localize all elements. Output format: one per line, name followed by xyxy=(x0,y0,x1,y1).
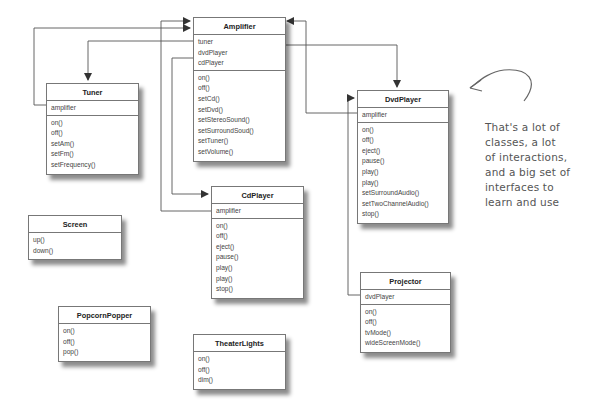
attributes-section: amplifier xyxy=(47,101,138,116)
class-title: Projector xyxy=(361,273,450,290)
attributes-section: tuner dvdPlayer cdPlayer xyxy=(194,35,285,71)
method: on() xyxy=(365,307,446,318)
methods-section: on() off() setAm() setFm() setFrequency(… xyxy=(47,116,138,174)
attribute: amplifier xyxy=(51,103,134,114)
class-title: Amplifier xyxy=(194,18,285,35)
method: stop() xyxy=(216,284,299,295)
class-theaterlights: TheaterLights on() off() dim() xyxy=(193,334,286,390)
annotation-line: That's a lot of xyxy=(485,120,595,135)
method: up() xyxy=(33,235,117,246)
methods-section: on() off() pop() xyxy=(59,324,150,361)
method: eject() xyxy=(216,242,299,253)
annotation-line: classes, a lot xyxy=(485,135,595,150)
method: setFm() xyxy=(51,149,134,160)
method: pop() xyxy=(63,347,146,358)
attribute: amplifier xyxy=(362,110,444,121)
class-title: PopcornPopper xyxy=(59,307,150,324)
methods-section: on() off() tvMode() wideScreenMode() xyxy=(361,305,450,352)
method: off() xyxy=(51,128,134,139)
method: setCd() xyxy=(198,94,281,105)
class-title: TheaterLights xyxy=(194,335,285,352)
class-tuner: Tuner amplifier on() off() setAm() setFm… xyxy=(46,83,139,175)
annotation-line: learn and use xyxy=(485,195,595,210)
attribute: dvdPlayer xyxy=(198,48,281,59)
class-title: CdPlayer xyxy=(212,187,303,204)
attribute: amplifier xyxy=(216,206,299,217)
method: on() xyxy=(198,73,281,84)
class-amplifier: Amplifier tuner dvdPlayer cdPlayer on() … xyxy=(193,17,286,162)
method: pause() xyxy=(362,156,444,167)
class-title: Tuner xyxy=(47,84,138,101)
method: on() xyxy=(63,326,146,337)
annotation-line: and a big set of xyxy=(485,165,595,180)
attribute: dvdPlayer xyxy=(365,292,446,303)
annotation-line: of interactions, xyxy=(485,150,595,165)
method: setFrequency() xyxy=(51,160,134,171)
method: setTwoChannelAudio() xyxy=(362,199,444,210)
method: on() xyxy=(198,354,281,365)
annotation-line: interfaces to xyxy=(485,180,595,195)
method: dim() xyxy=(198,375,281,386)
methods-section: on() off() eject() pause() play() play()… xyxy=(358,123,448,223)
method: setTuner() xyxy=(198,136,281,147)
method: pause() xyxy=(216,252,299,263)
class-cdplayer: CdPlayer amplifier on() off() eject() pa… xyxy=(211,186,304,299)
method: off() xyxy=(63,337,146,348)
method: setSurroundAudio() xyxy=(362,188,444,199)
method: on() xyxy=(51,118,134,129)
method: off() xyxy=(198,83,281,94)
method: off() xyxy=(365,317,446,328)
methods-section: up() down() xyxy=(29,233,121,259)
method: off() xyxy=(198,365,281,376)
dvdplayer-to-amplifier-line xyxy=(287,21,357,113)
method: play() xyxy=(216,274,299,285)
method: play() xyxy=(362,178,444,189)
methods-section: on() off() setCd() setDvd() setStereoSou… xyxy=(194,71,285,161)
method: off() xyxy=(362,135,444,146)
method: stop() xyxy=(362,209,444,220)
method: play() xyxy=(362,167,444,178)
class-title: DvdPlayer xyxy=(358,91,448,108)
amplifier-to-dvdplayer-line xyxy=(284,45,397,87)
method: off() xyxy=(216,231,299,242)
method: down() xyxy=(33,246,117,257)
method: wideScreenMode() xyxy=(365,338,446,349)
method: setAm() xyxy=(51,139,134,150)
class-dvdplayer: DvdPlayer amplifier on() off() eject() p… xyxy=(357,90,449,224)
class-title: Screen xyxy=(29,216,121,233)
attributes-section: dvdPlayer xyxy=(361,290,450,305)
method: on() xyxy=(362,125,444,136)
handwritten-annotation: That's a lot of classes, a lot of intera… xyxy=(485,120,595,210)
method: tvMode() xyxy=(365,328,446,339)
method: play() xyxy=(216,263,299,274)
attributes-section: amplifier xyxy=(358,108,448,123)
curved-arrow-icon xyxy=(470,70,531,101)
method: setSurroundSoud() xyxy=(198,126,281,137)
amplifier-to-tuner-line xyxy=(88,41,193,80)
methods-section: on() off() eject() pause() play() play()… xyxy=(212,219,303,298)
method: eject() xyxy=(362,146,444,157)
methods-section: on() off() dim() xyxy=(194,352,285,389)
attributes-section: amplifier xyxy=(212,204,303,219)
class-popcornpopper: PopcornPopper on() off() pop() xyxy=(58,306,151,362)
attribute: cdPlayer xyxy=(198,58,281,69)
attribute: tuner xyxy=(198,37,281,48)
method: setStereoSound() xyxy=(198,115,281,126)
method: setVolume() xyxy=(198,147,281,158)
class-projector: Projector dvdPlayer on() off() tvMode() … xyxy=(360,272,451,353)
method: on() xyxy=(216,221,299,232)
method: setDvd() xyxy=(198,105,281,116)
class-screen: Screen up() down() xyxy=(28,215,122,260)
